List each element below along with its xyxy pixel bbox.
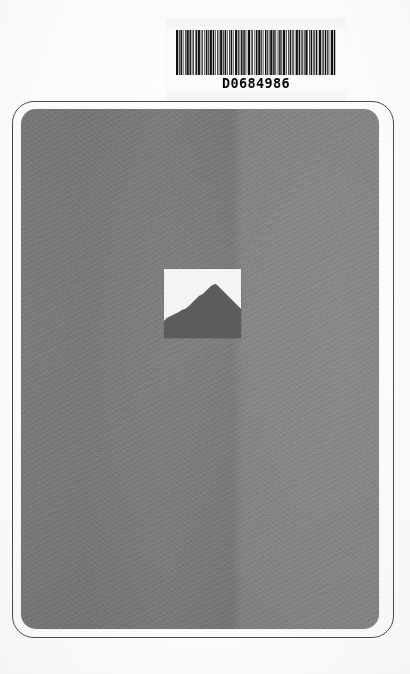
cover-photo-thumbnail <box>164 269 241 338</box>
barcode-label: D0684986 <box>166 19 346 101</box>
mountain-ridge-icon <box>164 269 241 338</box>
card-paper-grain <box>21 109 379 629</box>
barcode-number-text: D0684986 <box>166 75 346 91</box>
card-vignette <box>21 109 379 629</box>
barcode-bars <box>176 30 336 75</box>
book-back-cover-card <box>21 109 379 629</box>
scan-page-background: D0684986 <box>0 0 410 674</box>
